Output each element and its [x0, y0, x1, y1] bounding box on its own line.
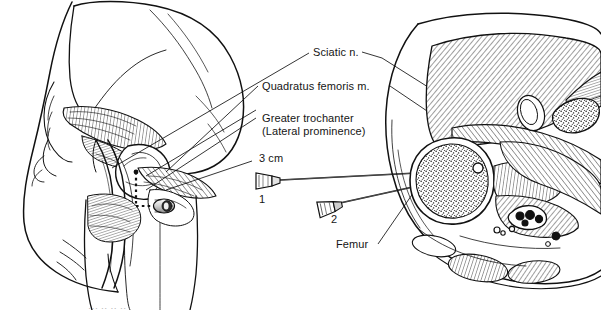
- cut-off-caption: ··· ·· ·· ··: [88, 303, 126, 309]
- cs-vessel-d: [552, 232, 560, 240]
- cs-muscle-oval-c: [507, 258, 561, 285]
- cs-skin-superior: [418, 13, 601, 34]
- cs-vessel-b: [501, 231, 505, 235]
- label-needle-one: 1: [259, 193, 265, 206]
- contour-crease-a: [63, 240, 86, 258]
- label-femur: Femur: [336, 238, 368, 251]
- leader-qf-left: [166, 86, 258, 172]
- cs-vessel-e: [546, 242, 551, 247]
- label-needle-two: 2: [331, 213, 337, 226]
- cs-needle-target-ring: [473, 163, 483, 173]
- needle-one-hub: [256, 173, 280, 189]
- gluteal-fold: [108, 254, 118, 292]
- cs-muscle-oval-b: [446, 250, 510, 286]
- needle-entry-hub-marker: [154, 199, 175, 213]
- gluteus-medial-border: [69, 6, 88, 118]
- coccyx-detail: [32, 170, 42, 186]
- coccyx-tip: [34, 156, 44, 182]
- anatomical-figure: Sciatic n. Quadratus femoris m. Greater …: [0, 0, 601, 310]
- label-sciatic-nerve: Sciatic n.: [313, 46, 359, 59]
- label-distance-3cm: 3 cm: [259, 152, 283, 165]
- piriformis-muscle: [63, 107, 166, 151]
- label-greater-trochanter-line1: Greater trochanter: [262, 112, 354, 125]
- coccyx-outline: [43, 140, 56, 176]
- label-quadratus-femoris: Quadratus femoris m.: [262, 80, 370, 93]
- illustration-canvas: [0, 0, 601, 310]
- sacrum-line-a: [48, 96, 54, 120]
- label-greater-trochanter-line2: (Lateral prominence): [262, 125, 366, 138]
- cs-vessel-c: [509, 226, 514, 231]
- leader-sciatic-right-stub: [362, 52, 382, 58]
- measurement-origin-dot: [134, 170, 139, 175]
- leader-sciatic-left: [112, 53, 309, 168]
- cs-vessel-a: [494, 227, 500, 233]
- gm-fiber-b: [168, 14, 208, 72]
- right-panel-cross-section: [386, 13, 601, 289]
- cs-femur-cancellous: [416, 144, 488, 218]
